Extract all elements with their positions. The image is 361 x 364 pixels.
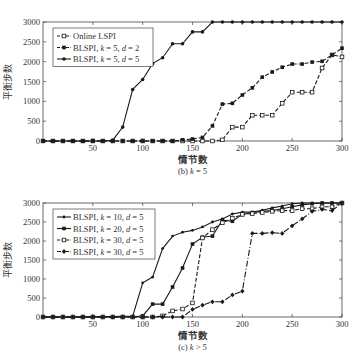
y-tick-label: 500 <box>27 293 40 303</box>
y-tick-label: 500 <box>27 116 40 126</box>
legend-label: BLSPI, k = 30, d = 5 <box>73 247 144 257</box>
y-tick-label: 1500 <box>23 77 40 87</box>
x-tick-label: 100 <box>136 143 149 153</box>
y-tick-label: 2500 <box>23 217 40 227</box>
y-tick-label: 0 <box>36 136 40 146</box>
x-tick-label: 250 <box>286 319 299 329</box>
legend-label: BLSPI, k = 5, d = 2 <box>73 43 139 53</box>
x-tick-label: 200 <box>236 143 249 153</box>
y-tick-label: 1500 <box>23 255 40 265</box>
x-tick-label: 100 <box>136 319 149 329</box>
x-tick-label: 50 <box>89 143 98 153</box>
chart-b-k-equals-5: 0500100015002000250030005010015020025030… <box>0 0 361 182</box>
y-axis-label: 平衡步数 <box>2 242 13 278</box>
y-tick-label: 3000 <box>23 17 40 27</box>
y-tick-label: 3000 <box>23 198 40 208</box>
x-tick-label: 50 <box>89 319 98 329</box>
legend-label: Online LSPI <box>73 31 116 41</box>
x-tick-label: 150 <box>186 319 199 329</box>
x-tick-label: 150 <box>186 143 199 153</box>
legend-label: BLSPI, k = 10, d = 5 <box>73 212 144 222</box>
legend: BLSPI, k = 10, d = 5BLSPI, k = 20, d = 5… <box>53 209 155 259</box>
y-tick-label: 1000 <box>23 96 40 106</box>
legend-label: BLSPI, k = 20, d = 5 <box>73 224 144 234</box>
figure-caption: (b) k = 5 <box>178 166 207 176</box>
y-tick-label: 2000 <box>23 236 40 246</box>
x-axis-label: 情节数 <box>177 330 208 341</box>
chart-c-k-greater-than-5: 0500100015002000250030005010015020025030… <box>0 182 361 364</box>
y-tick-label: 1000 <box>23 274 40 284</box>
x-axis-label: 情节数 <box>177 154 208 165</box>
figure-caption: (c) k > 5 <box>178 342 207 352</box>
x-tick-label: 300 <box>336 319 349 329</box>
legend: Online LSPIBLSPI, k = 5, d = 2BLSPI, k =… <box>53 28 153 67</box>
figure-root: 0500100015002000250030005010015020025030… <box>0 0 361 364</box>
x-tick-label: 300 <box>336 143 349 153</box>
y-tick-label: 0 <box>36 312 40 322</box>
y-tick-label: 2500 <box>23 37 40 47</box>
y-axis-label: 平衡步数 <box>2 64 13 100</box>
legend-label: BLSPI, k = 5, d = 5 <box>73 54 139 64</box>
x-tick-label: 250 <box>286 143 299 153</box>
legend-label: BLSPI, k = 30, d = 5 <box>73 235 144 245</box>
y-tick-label: 2000 <box>23 57 40 67</box>
x-tick-label: 200 <box>236 319 249 329</box>
